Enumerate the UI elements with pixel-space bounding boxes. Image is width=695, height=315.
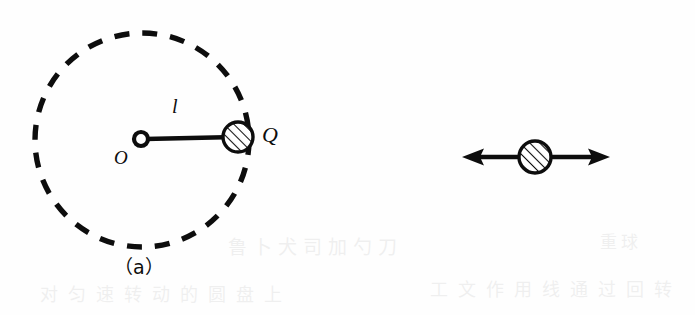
pivot-hub-circle [134,132,148,146]
panel-b: Nd Q g l ω 2 （b） [350,0,695,315]
centrifugal-force-arrow-right [551,149,610,166]
panel-a: O l Q （a） [0,0,350,315]
reaction-force-arrow-left [462,149,519,166]
panel-a-graphics [0,0,350,315]
figure-canvas: 鲁卜犬司加勺刀 对匀速转动的圆盘上 工文作用线通过回转 重球 [0,0,695,315]
hub-label-O: O [114,147,128,169]
arm-length-label-l: l [172,95,178,118]
mass-hatched-circle [519,141,551,173]
mass-label-Q: Q [262,122,278,148]
mass-hatched-circle [223,122,253,152]
panel-b-graphics [350,0,695,315]
caption-panel-a: （a） [114,252,164,279]
